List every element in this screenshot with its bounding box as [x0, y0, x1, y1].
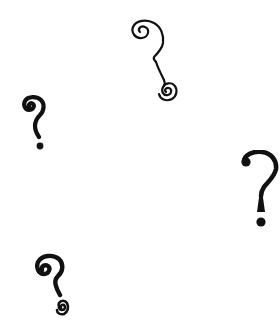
question-mark-icon-bold-right [240, 150, 280, 230]
question-mark-label: ? [0, 0, 1, 1]
question-mark-icon-spiral-outline [128, 18, 180, 104]
question-mark-icon-spiral-bottom [33, 253, 73, 317]
question-mark-icon-bold-left [20, 95, 50, 152]
question-mark-label: ? [0, 0, 1, 1]
question-mark-label: ? [0, 0, 1, 1]
question-mark-label: ? [0, 0, 1, 1]
